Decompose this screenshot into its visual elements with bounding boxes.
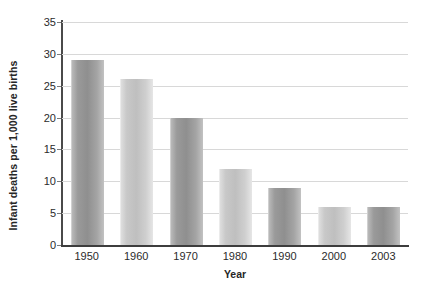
plot-area bbox=[62, 22, 408, 245]
x-axis-tick-label: 1990 bbox=[260, 250, 309, 262]
bar-chart: Infant deaths per 1,000 live births 0510… bbox=[0, 0, 427, 291]
y-axis-tick-label: 30 bbox=[4, 48, 56, 60]
gridline bbox=[62, 54, 408, 55]
bar bbox=[318, 207, 351, 245]
y-axis-tick-label: 10 bbox=[4, 175, 56, 187]
x-axis-tick-label: 1980 bbox=[210, 250, 259, 262]
y-axis-tick-group: 05101520253035 bbox=[0, 0, 56, 291]
x-axis-line bbox=[61, 245, 409, 247]
y-axis-tick-label: 5 bbox=[4, 207, 56, 219]
x-axis-title: Year bbox=[62, 268, 408, 280]
gridline bbox=[62, 149, 408, 150]
x-axis-tick-label: 1950 bbox=[62, 250, 111, 262]
x-axis-tick-label: 1960 bbox=[111, 250, 160, 262]
y-axis-tick-label: 15 bbox=[4, 143, 56, 155]
gridline bbox=[62, 86, 408, 87]
bar bbox=[268, 188, 301, 245]
bar bbox=[71, 60, 104, 245]
x-axis-tick-label: 1970 bbox=[161, 250, 210, 262]
bar bbox=[120, 79, 153, 245]
gridline bbox=[62, 22, 408, 23]
y-axis-tick-label: 0 bbox=[4, 239, 56, 251]
bar bbox=[219, 169, 252, 245]
bar bbox=[367, 207, 400, 245]
y-axis-tick-label: 35 bbox=[4, 16, 56, 28]
bar bbox=[170, 118, 203, 245]
gridline bbox=[62, 118, 408, 119]
x-axis-tick-label: 2003 bbox=[359, 250, 408, 262]
y-axis-tick-label: 25 bbox=[4, 80, 56, 92]
x-axis-tick-label: 2000 bbox=[309, 250, 358, 262]
y-axis-tick-label: 20 bbox=[4, 112, 56, 124]
